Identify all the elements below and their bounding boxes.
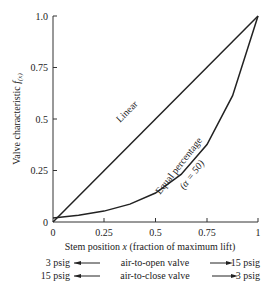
x-tick-0: 0 [51, 227, 56, 238]
y-tick-025: 0.25 [31, 165, 49, 176]
footer-row-air-to-open: 3 psig air-to-open valve 15 psig [46, 257, 260, 268]
valve-characteristic-chart: 1.0 0.75 0.5 0.25 0 0 0.25 0.5 0.75 1 Va… [0, 0, 277, 295]
x-tick-05: 0.5 [149, 227, 162, 238]
y-axis [53, 16, 57, 222]
x-axis [53, 218, 258, 222]
x-axis-label: Stem position x (fraction of maximum lif… [65, 241, 236, 253]
footer-row1-right: 15 psig [231, 257, 260, 268]
x-tick-025: 0.25 [95, 227, 113, 238]
y-tick-05: 0.5 [36, 114, 49, 125]
footer-row2-right: 3 psig [236, 270, 260, 281]
x-tick-1: 1 [256, 227, 261, 238]
footer-row2-left: 15 psig [41, 270, 70, 281]
footer-row1-middle: air-to-open valve [121, 257, 190, 268]
y-tick-labels: 1.0 0.75 0.5 0.25 0 [31, 11, 49, 228]
footer-row1-left: 3 psig [46, 257, 70, 268]
y-axis-label: Valve characteristic f(x) [11, 73, 24, 165]
footer-row-air-to-close: 15 psig air-to-close valve 3 psig [41, 270, 260, 281]
x-tick-075: 0.75 [198, 227, 216, 238]
y-tick-075: 0.75 [31, 62, 49, 73]
y-tick-1: 1.0 [36, 11, 49, 22]
linear-annotation: Linear [114, 98, 141, 125]
y-tick-0: 0 [43, 217, 48, 228]
footer-row2-middle: air-to-close valve [120, 270, 190, 281]
x-tick-labels: 0 0.25 0.5 0.75 1 [51, 227, 261, 238]
